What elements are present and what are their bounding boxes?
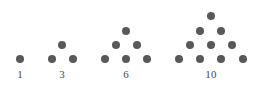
dot <box>196 55 204 63</box>
dot-group: 10 <box>0 0 271 91</box>
dot <box>217 55 225 63</box>
triangular-numbers-figure: 13610 <box>0 0 271 91</box>
dot <box>217 27 225 35</box>
dot <box>207 12 215 20</box>
dot <box>175 55 183 63</box>
dot <box>186 41 194 49</box>
dot <box>239 55 247 63</box>
dot <box>207 41 215 49</box>
group-count-label: 10 <box>205 69 216 80</box>
dot <box>228 41 236 49</box>
dot <box>196 27 204 35</box>
